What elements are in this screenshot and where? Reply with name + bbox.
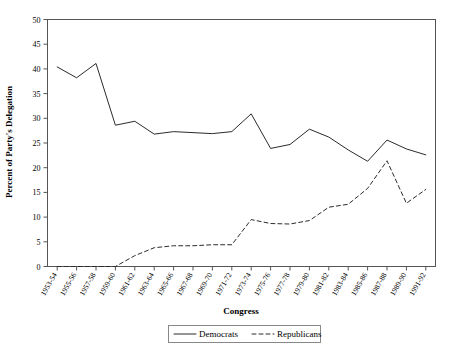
plot-frame xyxy=(48,20,436,267)
x-tick-label: 1977-78 xyxy=(271,271,291,297)
x-tick-label: 1991-92 xyxy=(407,271,427,297)
plot-border xyxy=(48,20,436,267)
y-tick-label: 10 xyxy=(33,213,41,222)
y-tick-label: 50 xyxy=(33,16,41,25)
x-tick-label: 1983-84 xyxy=(330,271,350,297)
x-axis-ticks xyxy=(57,267,426,271)
y-axis-ticks: 05101520253035404550 xyxy=(33,16,48,272)
x-tick-label: 1959-60 xyxy=(97,271,117,297)
chart-legend: Democrats Republicans xyxy=(169,326,322,343)
x-tick-label: 1955-56 xyxy=(58,271,78,297)
x-tick-label: 1957-58 xyxy=(77,271,97,297)
x-tick-label: 1967-68 xyxy=(174,271,194,297)
y-tick-label: 30 xyxy=(33,114,41,123)
x-axis-title: Congress xyxy=(223,306,259,316)
x-tick-label: 1963-64 xyxy=(136,271,156,297)
x-tick-label: 1971-72 xyxy=(213,271,233,297)
y-tick-label: 45 xyxy=(33,40,41,49)
y-axis-title-text: Percent of Party's Delegation xyxy=(4,86,14,198)
x-tick-label: 1969-70 xyxy=(194,271,214,297)
x-tick-label: 1979-80 xyxy=(291,271,311,297)
x-axis-title-text: Congress xyxy=(223,306,259,316)
y-tick-label: 5 xyxy=(37,238,41,247)
x-tick-label: 1975-76 xyxy=(252,271,272,297)
x-tick-label: 1987-88 xyxy=(368,271,388,297)
chart-container: Percent of Party's Delegation 0510152025… xyxy=(0,0,464,351)
y-tick-label: 25 xyxy=(33,139,41,148)
series-line-republicans xyxy=(57,161,426,267)
x-tick-label: 1965-66 xyxy=(155,271,175,297)
x-tick-label: 1985-86 xyxy=(349,271,369,297)
y-axis-title: Percent of Party's Delegation xyxy=(4,86,14,198)
y-tick-label: 15 xyxy=(33,188,41,197)
series-line-democrats xyxy=(57,63,426,161)
y-tick-label: 0 xyxy=(37,263,41,272)
y-tick-label: 35 xyxy=(33,90,41,99)
x-tick-label: 1989-90 xyxy=(388,271,408,297)
data-series-group xyxy=(57,63,426,266)
legend-label-democrats: Democrats xyxy=(199,329,238,339)
x-axis-tick-labels: 1953-541955-561957-581959-601961-621963-… xyxy=(39,271,428,297)
x-tick-label: 1973-74 xyxy=(233,271,253,297)
y-tick-label: 20 xyxy=(33,164,41,173)
x-tick-label: 1981-82 xyxy=(310,271,330,297)
legend-label-republicans: Republicans xyxy=(277,329,322,339)
line-chart: Percent of Party's Delegation 0510152025… xyxy=(0,0,464,351)
x-tick-label: 1961-62 xyxy=(116,271,136,297)
y-tick-label: 40 xyxy=(33,65,41,74)
x-tick-label: 1953-54 xyxy=(39,271,59,297)
